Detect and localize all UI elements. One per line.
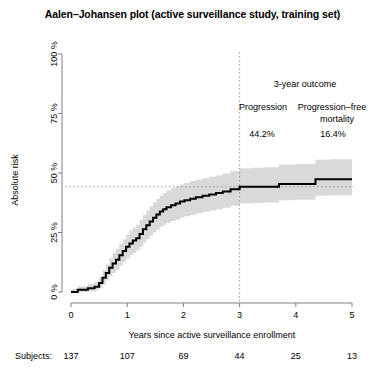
y-tick-label: 75 %	[49, 103, 59, 124]
annotation-progression-label: Progression	[239, 102, 287, 112]
y-tick-label: 100 %	[49, 41, 59, 67]
risk-table-value: 69	[178, 351, 188, 361]
x-axis-title: Years since active surveillance enrollme…	[129, 330, 296, 340]
risk-table-value: 137	[63, 351, 78, 361]
x-tick-label: 3	[237, 310, 242, 320]
x-tick-label: 2	[181, 310, 186, 320]
confidence-band	[71, 159, 352, 292]
annotation-pfm-label-line1: Progression–free	[298, 102, 367, 112]
x-axis: 012345	[68, 303, 354, 320]
annotation-pfm-value: 16.4%	[320, 129, 346, 139]
y-tick-label: 50 %	[49, 163, 59, 184]
x-tick-label: 0	[68, 310, 73, 320]
annotations-layer: 3-year outcome Progression Progression–f…	[239, 79, 366, 139]
aalen-johansen-plot: 0 %25 %50 %75 %100 % 012345 Absolute ris…	[0, 0, 385, 370]
x-tick-label: 5	[349, 310, 354, 320]
risk-table-value: 107	[120, 351, 135, 361]
x-tick-label: 1	[125, 310, 130, 320]
confidence-band-layer	[71, 159, 352, 292]
risk-table-value: 25	[291, 351, 301, 361]
risk-table-row-label: Subjects:	[15, 351, 52, 361]
chart-container: Aalen–Johansen plot (active surveillance…	[0, 0, 385, 370]
y-axis: 0 %25 %50 %75 %100 %	[49, 41, 62, 300]
risk-table-value: 13	[347, 351, 357, 361]
risk-table: Subjects: 13710769442513	[15, 351, 357, 361]
y-tick-label: 25 %	[49, 222, 59, 243]
y-axis-title: Absolute risk	[10, 154, 20, 206]
annotation-pfm-label-line2: mortality	[320, 114, 355, 124]
annotation-heading: 3-year outcome	[274, 79, 337, 89]
x-tick-label: 4	[293, 310, 298, 320]
y-tick-label: 0 %	[49, 284, 59, 300]
risk-table-value: 44	[235, 351, 245, 361]
annotation-progression-value: 44.2%	[249, 129, 275, 139]
